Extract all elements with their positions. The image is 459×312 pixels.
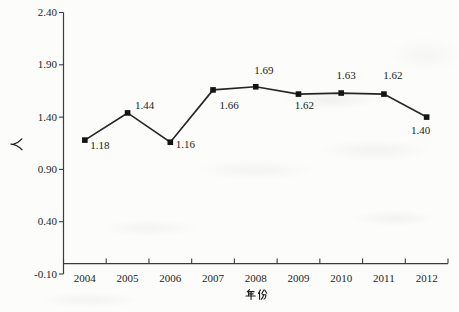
cjk-glyph-nian [245,289,256,300]
data-point-marker [381,91,387,97]
x-category-label: 2009 [287,272,310,284]
data-point-marker [424,114,430,120]
data-point-label: 1.62 [295,99,314,111]
y-tick-label: 1.40 [38,111,58,123]
y-tick-label: 0.90 [38,163,58,175]
data-point-marker [296,91,302,97]
y-tick-label: 2.40 [38,6,58,18]
cjk-glyph-fen [257,289,268,300]
data-line [85,87,427,142]
x-category-label: 2007 [202,272,225,284]
y-tick-label: 0.40 [38,215,58,227]
data-point-label: 1.66 [219,99,239,111]
data-point-marker [253,84,259,90]
data-point-label: 1.18 [90,139,110,151]
x-axis-title [245,289,268,300]
x-category-label: 2012 [416,272,438,284]
data-point-label: 1.44 [135,99,155,111]
x-category-label: 2008 [245,272,268,284]
x-category-label: 2011 [373,272,395,284]
x-category-label: 2006 [159,272,182,284]
y-axis-title [10,138,23,151]
data-point-label: 1.16 [176,138,196,150]
data-point-marker [125,110,131,116]
data-point-marker [210,87,216,93]
x-category-label: 2004 [74,272,97,284]
data-point-marker [338,90,344,96]
data-point-label: 1.69 [254,64,274,76]
y-tick-label: -0.10 [34,268,57,280]
data-point-label: 1.40 [411,124,431,136]
y-tick-label: 1.90 [38,58,58,70]
x-category-label: 2005 [117,272,140,284]
cjk-glyph-ren [10,138,23,151]
scanned-line-chart-page: 2.401.901.400.900.40-0.10200420052006200… [0,0,459,312]
x-category-label: 2010 [330,272,353,284]
data-point-label: 1.63 [337,69,357,81]
data-point-label: 1.62 [383,69,402,81]
data-point-marker [82,137,88,143]
data-point-marker [168,139,174,145]
chart-canvas: 2.401.901.400.900.40-0.10200420052006200… [0,0,459,312]
